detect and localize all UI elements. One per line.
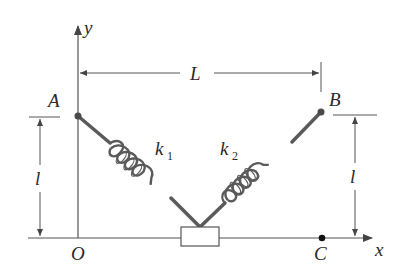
spring-k1-rod-bottom (171, 198, 200, 227)
label-point-a: A (46, 90, 60, 111)
spring-k2: k 2 (200, 112, 321, 227)
point-c-dot (319, 235, 326, 242)
spring-k2-rod-top (292, 112, 321, 142)
spring-k1-rod-top (78, 116, 110, 143)
dimension-L: L (80, 62, 321, 92)
spring-k2-rod-bottom (200, 203, 225, 227)
sliding-block (181, 227, 219, 246)
label-k2-subscript: 2 (232, 149, 238, 163)
label-point-b: B (329, 89, 341, 110)
label-y-axis: y (82, 17, 93, 38)
label-k1: k (155, 138, 164, 159)
label-l-left: l (35, 168, 40, 189)
axes (28, 26, 372, 238)
label-k1-subscript: 1 (167, 149, 173, 163)
label-L: L (189, 63, 201, 84)
label-x-axis: x (374, 239, 384, 260)
label-k2: k (220, 138, 229, 159)
label-origin: O (71, 243, 85, 264)
label-l-right: l (350, 166, 355, 187)
spring-mass-diagram: L l l k 1 (0, 0, 414, 272)
dimension-l-left: l (29, 117, 60, 236)
dimension-l-right: l (333, 115, 377, 236)
point-b-pin (318, 109, 325, 116)
label-point-c: C (314, 243, 327, 264)
spring-k1: k 1 (78, 116, 200, 227)
point-a-pin (75, 113, 82, 120)
